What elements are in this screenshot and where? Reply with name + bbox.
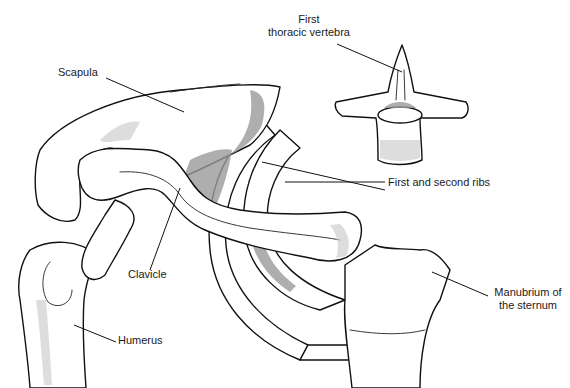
label-manubrium-line1: Manubrium of	[488, 286, 568, 299]
rib1-leader	[262, 162, 385, 190]
anatomy-diagram: First thoracic vertebra Scapula First an…	[0, 0, 570, 388]
clavicle-leader	[150, 188, 180, 270]
label-manubrium-line2: the sternum	[488, 299, 568, 312]
label-vertebra-line1: First	[262, 13, 356, 26]
label-vertebra-line2: thoracic vertebra	[262, 26, 356, 39]
vertebra-leader	[337, 44, 402, 72]
label-clavicle: Clavicle	[128, 268, 167, 281]
label-manubrium: Manubrium of the sternum	[488, 286, 568, 312]
shoulder-girdle-illustration	[0, 0, 570, 388]
label-first-thoracic-vertebra: First thoracic vertebra	[262, 13, 356, 39]
label-first-and-second-ribs: First and second ribs	[388, 176, 490, 189]
thoracic-vertebra-bone	[335, 45, 468, 165]
manubrium-bone	[345, 245, 450, 388]
label-humerus: Humerus	[118, 334, 163, 347]
label-scapula: Scapula	[58, 66, 98, 79]
